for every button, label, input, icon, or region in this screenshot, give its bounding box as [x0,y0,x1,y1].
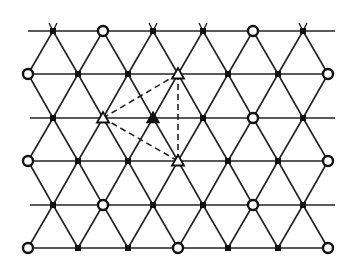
lattice-node [275,71,281,77]
lattice-node [75,71,81,77]
diagonal-line [128,31,153,74]
dashed-line [103,118,178,161]
diagonal-line [303,161,328,205]
diagonal-line [253,118,278,161]
diagonal-line [203,31,228,74]
diagonal-line [253,74,278,118]
lattice-node [150,28,156,34]
diagonal-line [203,161,228,205]
diagonal-line [178,118,203,161]
diagonal-line [303,205,328,248]
open-circle-marker [248,200,258,210]
lattice-node [50,115,56,121]
dashed-line [103,74,178,118]
diagonal-line [78,74,103,118]
diagonal-line [78,161,103,205]
open-circle-marker [248,26,258,36]
diagonal-line [153,31,178,74]
diagonal-line [203,74,228,118]
diagonal-line [103,31,128,74]
diagonal-line [278,118,303,161]
diagonal-line [103,205,128,248]
diagonal-line [203,205,228,248]
diagonal-line [28,74,53,118]
diagonal-line [28,118,53,161]
open-circle-marker [23,156,33,166]
diagonal-line [203,118,228,161]
lattice-node [225,158,231,164]
diagonal-line [253,31,278,74]
open-circle-marker [323,243,333,253]
lattice-node [75,245,81,251]
open-circle-marker [98,200,108,210]
open-circle-marker [323,156,333,166]
diagonal-line [228,118,253,161]
diagonal-line [78,205,103,248]
diagonal-line [78,31,103,74]
lattice-node [50,28,56,34]
diagonal-line [53,31,78,74]
diagonal-line [28,161,53,205]
lattice-node [200,202,206,208]
lattice-lines [28,23,335,248]
lattice-node [200,115,206,121]
diagonal-line [278,74,303,118]
diagonal-line [253,161,278,205]
lattice-node [275,245,281,251]
lattice-node [125,158,131,164]
open-circle-marker [248,113,258,123]
diagonal-line [53,74,78,118]
lattice-node [50,202,56,208]
lattice-node [200,28,206,34]
diagonal-line [278,31,303,74]
diagonal-line [228,161,253,205]
lattice-node [300,202,306,208]
diagonal-line [128,205,153,248]
diagonal-line [253,205,278,248]
diagonal-line [53,161,78,205]
lattice-node [275,158,281,164]
diagonal-line [278,161,303,205]
lattice-node [125,71,131,77]
open-circle-marker [98,26,108,36]
diagonal-line [53,205,78,248]
diagonal-line [303,118,328,161]
diagonal-line [128,161,153,205]
open-circle-marker [23,69,33,79]
diagonal-line [228,74,253,118]
lattice-node [225,245,231,251]
lattice-node [125,245,131,251]
diagonal-line [28,205,53,248]
diagonal-line [178,161,203,205]
diagonal-line [153,205,178,248]
diagonal-line [103,161,128,205]
diagonal-line [303,74,328,118]
diagonal-line [303,31,328,74]
lattice-node [150,202,156,208]
lattice-node [300,28,306,34]
diagonal-line [78,118,103,161]
lattice-node [300,115,306,121]
diagonal-line [228,205,253,248]
diagonal-line [53,118,78,161]
diagonal-line [228,31,253,74]
open-circle-marker [173,243,183,253]
diagonal-line [178,74,203,118]
lattice-node [75,158,81,164]
diagonal-line [178,205,203,248]
lattice-node [225,71,231,77]
open-circle-marker [323,69,333,79]
diagonal-line [28,31,53,74]
open-circle-marker [23,243,33,253]
diagonal-line [153,161,178,205]
diagonal-line [278,205,303,248]
triangular-lattice-svg [0,0,357,268]
diagonal-line [178,31,203,74]
lattice-diagram [0,0,357,268]
